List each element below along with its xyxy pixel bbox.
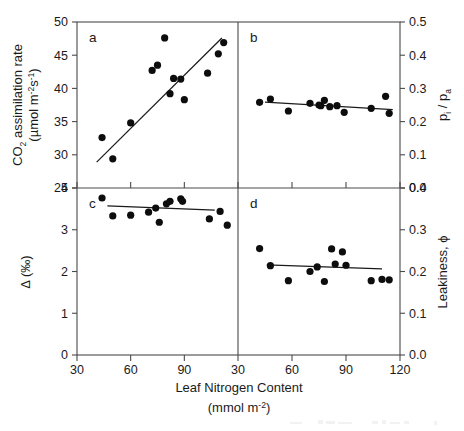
y-ticklabel-a: 45 — [54, 49, 68, 63]
y-ticklabel-d: 0.1 — [409, 307, 426, 321]
ylabel-panel-a-line1: CO2 assimilation rate — [10, 44, 28, 166]
data-point-c — [206, 215, 213, 222]
data-point-a — [98, 134, 105, 141]
data-point-a — [215, 50, 222, 57]
y-ticklabel-c: 4 — [61, 181, 68, 195]
data-point-c — [217, 208, 224, 215]
data-point-a — [149, 67, 156, 74]
data-point-c — [127, 212, 134, 219]
y-ticklabel-c: 3 — [61, 223, 68, 237]
data-point-d — [285, 277, 292, 284]
x-ticklabel-right: 120 — [390, 363, 411, 377]
ylabel-panel-d: Leakiness, ϕ — [435, 235, 450, 308]
data-point-d — [314, 263, 321, 270]
panel-letter-b: b — [250, 30, 258, 45]
figure-container: abcd5045403530250.50.40.30.20.10.0432100… — [0, 0, 464, 431]
data-point-d — [328, 245, 335, 252]
data-point-a — [181, 96, 188, 103]
y-ticklabel-b: 0.5 — [409, 15, 426, 29]
data-point-a — [154, 62, 161, 69]
data-point-a — [166, 90, 173, 97]
data-point-c — [152, 204, 159, 211]
data-point-b — [326, 103, 333, 110]
data-point-c — [98, 194, 105, 201]
data-point-d — [368, 277, 375, 284]
data-point-b — [333, 102, 340, 109]
data-point-a — [220, 39, 227, 46]
data-point-b — [382, 93, 389, 100]
data-point-c — [145, 209, 152, 216]
x-ticklabel-left: 90 — [177, 363, 191, 377]
data-point-b — [256, 99, 263, 106]
y-ticklabel-b: 0.3 — [409, 82, 426, 96]
x-ticklabel-left: 30 — [70, 363, 84, 377]
data-point-d — [332, 260, 339, 267]
data-point-c — [166, 198, 173, 205]
data-point-b — [386, 110, 393, 117]
data-point-a — [177, 76, 184, 83]
fit-line-a — [97, 38, 222, 162]
y-ticklabel-d: 0.3 — [409, 223, 426, 237]
panel-letter-a: a — [89, 30, 97, 45]
xlabel-line1: Leaf Nitrogen Content — [175, 380, 303, 395]
y-ticklabel-a: 40 — [54, 82, 68, 96]
y-ticklabel-b: 0.1 — [409, 148, 426, 162]
y-ticklabel-b: 0.2 — [409, 115, 426, 129]
data-point-c — [179, 198, 186, 205]
panel-letter-c: c — [89, 196, 96, 211]
panel-letter-d: d — [250, 196, 258, 211]
y-ticklabel-a: 35 — [54, 115, 68, 129]
x-ticklabel-right: 60 — [285, 363, 299, 377]
data-point-a — [127, 119, 134, 126]
data-point-d — [386, 276, 393, 283]
data-point-d — [378, 276, 385, 283]
xlabel-line2: (mmol m-2) — [208, 400, 271, 416]
data-point-b — [306, 100, 313, 107]
data-point-d — [342, 262, 349, 269]
data-point-d — [321, 278, 328, 285]
fit-line-d — [267, 265, 382, 269]
data-point-a — [170, 75, 177, 82]
ylabel-panel-a-line2: (µmol m-2s-1) — [26, 68, 42, 141]
data-point-c — [109, 212, 116, 219]
data-point-d — [256, 245, 263, 252]
ylabel-panel-b: pi / pa — [435, 89, 453, 121]
data-point-b — [321, 97, 328, 104]
y-ticklabel-c: 2 — [61, 265, 68, 279]
data-point-a — [161, 34, 168, 41]
y-ticklabel-a: 30 — [54, 148, 68, 162]
y-ticklabel-c: 0 — [61, 348, 68, 362]
data-point-b — [368, 105, 375, 112]
y-ticklabel-a: 50 — [54, 15, 68, 29]
data-point-c — [224, 222, 231, 229]
data-point-d — [267, 262, 274, 269]
fit-line-c — [107, 206, 214, 210]
data-point-b — [285, 107, 292, 114]
x-ticklabel-left: 60 — [124, 363, 138, 377]
y-ticklabel-c: 1 — [61, 307, 68, 321]
y-ticklabel-b: 0.4 — [409, 49, 426, 63]
ylabel-panel-c: Δ (‰) — [18, 255, 33, 288]
data-point-d — [306, 268, 313, 275]
x-ticklabel-right: 90 — [339, 363, 353, 377]
scatter-panel-figure: abcd5045403530250.50.40.30.20.10.0432100… — [0, 0, 464, 431]
y-ticklabel-d: 0.2 — [409, 265, 426, 279]
data-point-b — [341, 109, 348, 116]
y-ticklabel-d: 0.0 — [409, 348, 426, 362]
x-ticklabel-right: 30 — [231, 363, 245, 377]
data-point-d — [339, 248, 346, 255]
data-point-a — [204, 70, 211, 77]
y-ticklabel-d: 0.4 — [409, 181, 426, 195]
data-point-c — [156, 219, 163, 226]
data-point-a — [109, 155, 116, 162]
data-point-b — [267, 95, 274, 102]
